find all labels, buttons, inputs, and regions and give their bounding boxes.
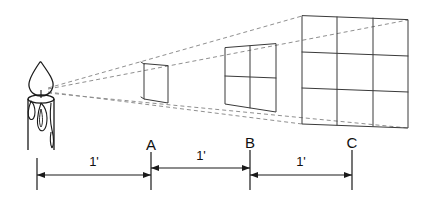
screen-C-outline	[302, 16, 408, 128]
dimension-label-1: 1'	[89, 154, 99, 169]
dimension-label-3: 1'	[296, 154, 306, 169]
screen-C-divider-horizontal-2	[302, 88, 408, 92]
screen-C-divider-horizontal-1	[302, 52, 408, 56]
screen-label-A: A	[146, 136, 156, 153]
screen-label-B: B	[245, 134, 255, 151]
candle-drip-left	[28, 101, 35, 120]
dimension-arrow-1-left	[37, 172, 45, 178]
diagram-canvas: A B C 1' 1' 1'	[0, 0, 427, 208]
candle	[28, 62, 54, 150]
candle-drip-right-tail	[50, 132, 52, 148]
dimension-arrow-2-right	[242, 165, 250, 171]
dimension-label-2: 1'	[196, 148, 206, 163]
light-ray-group	[48, 16, 408, 128]
dimension-arrow-2-left	[151, 165, 159, 171]
inverse-square-law-diagram: A B C 1' 1' 1'	[0, 0, 427, 208]
screen-C	[302, 16, 408, 128]
light-ray-upper	[48, 20, 408, 89]
dimension-arrow-3-right	[344, 172, 352, 178]
screen-B	[225, 44, 276, 112]
light-ray-bottom	[48, 93, 408, 128]
dimension-arrow-3-left	[250, 172, 258, 178]
candle-drip-center-inner	[40, 109, 43, 127]
screen-A-depth-edge-top	[141, 62, 144, 64]
screen-label-C: C	[347, 134, 358, 151]
dimension-arrow-1-right	[143, 172, 151, 178]
